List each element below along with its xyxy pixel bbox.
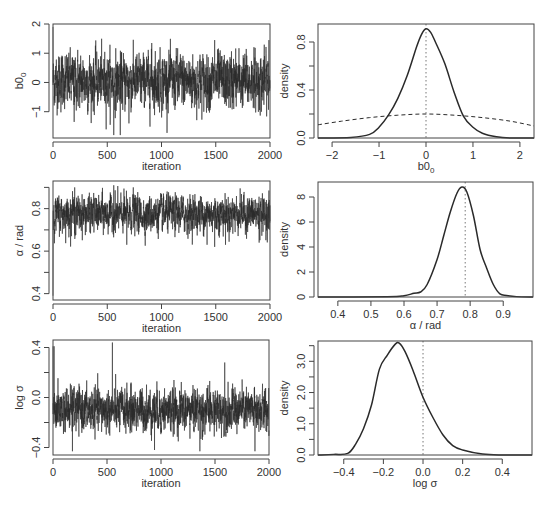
density-logsigma-xtick-label: 0.4 xyxy=(495,466,510,478)
density-logsigma-ytick-label: 0.0 xyxy=(295,447,307,462)
density-b0-ytick-label: 0.8 xyxy=(295,34,307,49)
trace-logsigma-ytick-label: −0.4 xyxy=(30,437,42,459)
density-logsigma-xtick-label: 0.2 xyxy=(455,466,470,478)
density-alpha-ylabel: density xyxy=(278,222,290,257)
density-b0-xtick-label: 2 xyxy=(517,149,523,161)
density-b0-xtick-label: −1 xyxy=(373,149,386,161)
trace-alpha-xlabel: iteration xyxy=(142,322,181,334)
density-logsigma-ylabel: density xyxy=(278,380,290,415)
density-alpha-xlabel: α / rad xyxy=(410,319,441,331)
density-alpha-xtick-label: 0.8 xyxy=(463,308,478,320)
trace-logsigma-ytick-label: 0.0 xyxy=(30,390,42,405)
trace-logsigma-xtick-label: 0 xyxy=(50,466,56,478)
trace-alpha-trace-line xyxy=(53,185,270,296)
density-alpha-ytick-label: 6 xyxy=(295,219,307,225)
density-b0-xtick-label: −2 xyxy=(326,149,339,161)
density-logsigma-posterior-curve xyxy=(318,342,532,455)
density-b0-xtick-label: 1 xyxy=(470,149,476,161)
trace-b0-xtick-label: 500 xyxy=(98,149,116,161)
density-alpha-ytick-label: 0 xyxy=(295,294,307,300)
trace-logsigma-ytick-label: 0.4 xyxy=(30,340,42,355)
figure-canvas: 0500100015002000−1012iterationb00−2−1012… xyxy=(0,0,550,505)
trace-b0-trace-line xyxy=(53,27,270,135)
density-alpha-plot-frame xyxy=(318,182,533,297)
trace-logsigma-xtick-label: 500 xyxy=(98,466,116,478)
trace-b0-ytick-label: −1 xyxy=(30,105,42,118)
trace-b0-panel: 0500100015002000−1012iterationb00 xyxy=(13,21,282,172)
trace-b0-ytick-label: 1 xyxy=(30,50,42,56)
trace-b0-ytick-label: 0 xyxy=(30,79,42,85)
density-alpha-ytick-label: 4 xyxy=(295,244,307,250)
density-alpha-ytick-label: 2 xyxy=(295,269,307,275)
density-logsigma-xtick-label: −0.2 xyxy=(373,466,395,478)
trace-alpha-xtick-label: 1500 xyxy=(204,311,228,323)
trace-logsigma-xlabel: iteration xyxy=(141,477,180,489)
trace-alpha-panel: 05001000150020000.40.60.8iterationα / ra… xyxy=(13,181,282,334)
trace-logsigma-ylabel: log σ xyxy=(13,385,25,410)
trace-logsigma-trace-line xyxy=(53,343,269,452)
trace-logsigma-xtick-label: 2000 xyxy=(257,466,281,478)
trace-alpha-ytick-label: 0.8 xyxy=(30,201,42,216)
density-alpha-posterior-curve xyxy=(318,187,533,297)
trace-alpha-xtick-label: 2000 xyxy=(258,311,282,323)
density-logsigma-ytick-label: 1.0 xyxy=(295,416,307,431)
density-alpha-xtick-label: 0.5 xyxy=(363,308,378,320)
trace-alpha-ylabel: α / rad xyxy=(13,225,25,256)
density-logsigma-ytick-label: 3.0 xyxy=(295,354,307,369)
density-b0-ylabel: density xyxy=(278,63,290,98)
density-alpha-xtick-label: 0.4 xyxy=(330,308,345,320)
trace-alpha-xtick-label: 0 xyxy=(50,311,56,323)
density-logsigma-xtick-label: −0.4 xyxy=(333,466,355,478)
density-b0-xlabel: b00 xyxy=(418,160,435,175)
trace-logsigma-xtick-label: 1500 xyxy=(203,466,227,478)
trace-b0-ytick-label: 2 xyxy=(30,21,42,27)
trace-b0-xtick-label: 0 xyxy=(50,149,56,161)
density-logsigma-ytick-label: 2.0 xyxy=(295,385,307,400)
density-alpha-ytick-label: 8 xyxy=(295,194,307,200)
trace-b0-xlabel: iteration xyxy=(142,160,181,172)
density-logsigma-panel: −0.4−0.20.00.20.40.01.02.03.0log σdensit… xyxy=(278,341,532,489)
trace-b0-xtick-label: 2000 xyxy=(258,149,282,161)
density-b0-panel: −2−10120.00.40.8b00density xyxy=(278,24,534,175)
density-logsigma-plot-frame xyxy=(318,341,532,455)
density-b0-ytick-label: 0.0 xyxy=(295,130,307,145)
density-alpha-xtick-label: 0.9 xyxy=(496,308,511,320)
trace-logsigma-panel: 0500100015002000−0.40.00.4iterationlog σ xyxy=(13,340,281,489)
density-alpha-panel: 0.40.50.60.70.80.902468α / raddensity xyxy=(278,182,533,331)
trace-alpha-ytick-label: 0.6 xyxy=(30,243,42,258)
trace-alpha-ytick-label: 0.4 xyxy=(30,286,42,301)
trace-b0-ylabel: b00 xyxy=(13,72,28,89)
density-logsigma-xlabel: log σ xyxy=(413,477,438,489)
trace-alpha-xtick-label: 500 xyxy=(98,311,116,323)
density-b0-ytick-label: 0.4 xyxy=(295,82,307,97)
trace-b0-xtick-label: 1500 xyxy=(204,149,228,161)
